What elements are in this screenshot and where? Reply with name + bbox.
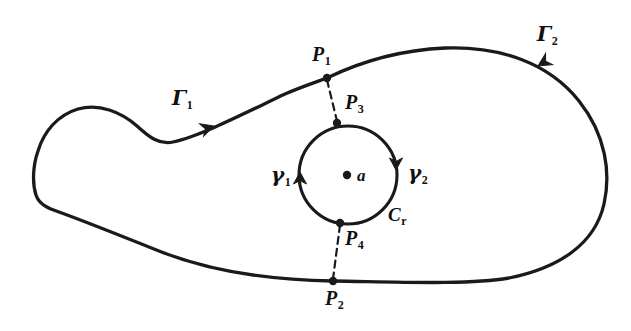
label-gamma-upper-sub: 1 bbox=[187, 98, 193, 112]
label-gamma-upper-base: Γ bbox=[172, 86, 186, 110]
marker-p3 bbox=[333, 119, 341, 127]
dashed-segment-p1-p3 bbox=[327, 80, 337, 121]
label-circle-cr-sub: r bbox=[401, 214, 406, 228]
label-gamma-lower-sub: 2 bbox=[552, 34, 558, 48]
label-center-a-base: a bbox=[357, 166, 366, 185]
label-gamma-right: γ2 bbox=[408, 163, 428, 186]
label-gamma-left: γ1 bbox=[271, 165, 291, 188]
outer-contour-path bbox=[34, 48, 607, 283]
label-point-p4-base: P bbox=[345, 227, 357, 249]
direction-arrows-group bbox=[200, 54, 553, 184]
contour-diagram-figure: Γ1 Γ2 P1 P3 P4 P2 γ1 γ2 Cr a bbox=[0, 0, 631, 331]
label-center-a: a bbox=[357, 167, 366, 184]
dashed-segment-p4-p2 bbox=[333, 225, 340, 279]
label-circle-cr-base: C bbox=[388, 204, 401, 225]
marker-p4 bbox=[336, 219, 344, 227]
label-point-p1-base: P bbox=[312, 43, 324, 65]
label-circle-cr: Cr bbox=[388, 205, 407, 227]
marker-p1 bbox=[323, 74, 331, 82]
label-gamma-right-sub: 2 bbox=[422, 173, 428, 187]
label-point-p1: P1 bbox=[312, 44, 331, 67]
label-point-p2: P2 bbox=[325, 288, 344, 311]
label-gamma-left-sub: 1 bbox=[285, 175, 291, 189]
label-gamma-left-base: γ bbox=[271, 163, 284, 187]
outer-contour-group bbox=[34, 48, 607, 283]
label-point-p2-sub: 2 bbox=[338, 298, 344, 312]
marker-p2 bbox=[329, 277, 337, 285]
dashed-connectors-group bbox=[327, 80, 340, 279]
label-gamma-lower: Γ2 bbox=[537, 24, 558, 47]
marker-center-a bbox=[343, 171, 351, 179]
label-gamma-right-base: γ bbox=[408, 161, 421, 185]
label-gamma-lower-base: Γ bbox=[537, 22, 551, 46]
label-point-p3-sub: 3 bbox=[358, 102, 364, 116]
label-point-p2-base: P bbox=[325, 287, 337, 309]
label-point-p4: P4 bbox=[345, 228, 364, 251]
label-point-p3-base: P bbox=[345, 91, 357, 113]
label-point-p4-sub: 4 bbox=[358, 238, 364, 252]
label-point-p1-sub: 1 bbox=[325, 54, 331, 68]
label-gamma-upper: Γ1 bbox=[172, 88, 193, 111]
label-point-p3: P3 bbox=[345, 92, 364, 115]
